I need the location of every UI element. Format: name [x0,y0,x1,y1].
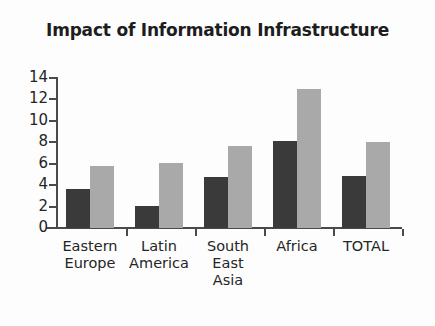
y-axis-tick [49,163,56,165]
y-axis-tick-label: 10 [8,113,48,128]
y-axis-tick-label: 2 [8,199,48,214]
bar-series-2-0 [90,166,114,228]
y-axis-tick [49,98,56,100]
bar-series-2-2 [228,146,252,229]
bar-group [204,78,252,228]
x-axis-separator-tick [195,229,197,236]
bar-series-1-2 [204,177,228,228]
category-label-line: Africa [261,238,333,255]
bar-series-1-4 [342,176,366,229]
category-label: LatinAmerica [123,238,195,272]
category-label-line: Eastern [54,238,126,255]
y-axis-tick [49,184,56,186]
category-label-line: Asia [192,272,264,289]
y-axis-tick-label: 12 [8,91,48,106]
bar-series-2-3 [297,89,321,228]
bar-group [273,78,321,228]
y-axis-tick-label: 8 [8,134,48,149]
y-axis-tick [49,206,56,208]
bar-group [342,78,390,228]
bar-series-1-1 [135,206,159,229]
chart-page: Impact of Information Infrastructure 024… [0,0,435,326]
category-label-line: TOTAL [330,238,402,255]
y-axis-tick-label: 6 [8,156,48,171]
y-axis-tick-label: 0 [8,220,48,235]
category-label: EasternEurope [54,238,126,272]
plot-area [57,78,400,228]
category-label-line: South [192,238,264,255]
y-axis-tick [49,77,56,79]
bar-group [135,78,183,228]
category-label: Africa [261,238,333,255]
y-axis-tick [49,120,56,122]
x-axis-separator-tick [264,229,266,236]
bar-series-1-0 [66,189,90,228]
category-label: TOTAL [330,238,402,255]
x-axis-separator-tick [333,229,335,236]
bar-series-2-1 [159,163,183,228]
x-axis-separator-tick [126,229,128,236]
bar-series-2-4 [366,142,390,228]
category-label-line: America [123,255,195,272]
x-axis-separator-tick [402,229,404,236]
y-axis-tick-label: 14 [8,70,48,85]
category-label-line: Latin [123,238,195,255]
bar-series-1-3 [273,141,297,228]
bar-group [66,78,114,228]
y-axis-tick [49,141,56,143]
y-axis-tick-label: 4 [8,177,48,192]
y-axis-tick [49,227,56,229]
category-label-line: Europe [54,255,126,272]
category-label-line: East [192,255,264,272]
chart-title: Impact of Information Infrastructure [0,20,435,40]
category-label: SouthEastAsia [192,238,264,289]
